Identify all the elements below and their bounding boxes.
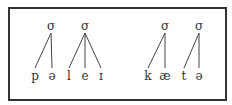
syllable-node-1: σ xyxy=(47,19,55,33)
segment-t: t xyxy=(182,69,187,83)
segment-ash: æ xyxy=(159,69,170,83)
association-line xyxy=(184,33,199,68)
segment-l: l xyxy=(67,69,71,83)
association-line xyxy=(85,33,101,68)
syllable-node-2: σ xyxy=(81,19,89,33)
segment-schwa: ə xyxy=(195,69,202,83)
segment-small-capital-i: ɪ xyxy=(99,69,103,83)
segment-k: k xyxy=(144,69,152,83)
association-line xyxy=(35,33,51,68)
association-line xyxy=(69,33,85,68)
segment-schwa: ə xyxy=(48,69,55,83)
syllable-node-3: σ xyxy=(161,19,169,33)
association-line xyxy=(51,33,52,68)
association-line xyxy=(148,33,165,68)
syllable-diagram: σ σ σ σ p ə l e ɪ k æ t ə xyxy=(0,0,232,105)
segment-p: p xyxy=(31,69,39,83)
syllable-node-4: σ xyxy=(195,19,203,33)
segment-e: e xyxy=(81,69,88,83)
